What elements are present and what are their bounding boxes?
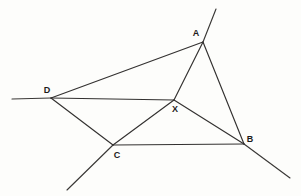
segment-DX xyxy=(51,98,174,100)
segment-XC xyxy=(113,100,174,145)
geometry-figure: A B C D X xyxy=(0,0,301,196)
geometry-canvas xyxy=(0,0,301,196)
segment-XB xyxy=(174,100,244,144)
vertex-label-X: X xyxy=(172,105,178,114)
ray-A-up-right xyxy=(203,9,216,42)
segment-CB xyxy=(113,144,244,145)
segment-DA xyxy=(51,42,203,98)
vertex-label-A: A xyxy=(193,29,200,38)
vertex-label-B: B xyxy=(247,135,254,144)
ray-D-left xyxy=(12,98,51,99)
ray-C-down-left xyxy=(67,145,113,190)
segment-AB xyxy=(203,42,244,144)
vertex-label-D: D xyxy=(44,86,51,95)
vertex-label-C: C xyxy=(114,151,121,160)
ray-B-down-right xyxy=(244,144,290,178)
segment-DC xyxy=(51,98,113,145)
